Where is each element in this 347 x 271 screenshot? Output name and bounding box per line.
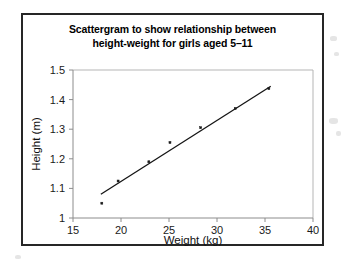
y-axis-tick-labels: 11.11.21.31.41.5 xyxy=(50,64,65,224)
y-axis-title: Height (m) xyxy=(30,117,42,171)
data-point xyxy=(148,161,150,163)
y-tick-label: 1.2 xyxy=(50,153,65,165)
y-tick-label: 1.4 xyxy=(50,94,65,106)
plot-background xyxy=(73,70,313,218)
data-point xyxy=(200,127,202,129)
x-tick-label: 40 xyxy=(307,224,319,236)
x-tick-label: 35 xyxy=(259,224,271,236)
x-tick-label: 20 xyxy=(115,224,127,236)
plot-area: 11.11.21.31.41.5 152025303540 Weight (kg… xyxy=(0,0,347,271)
y-tick-label: 1.3 xyxy=(50,123,65,135)
y-tick-label: 1.5 xyxy=(50,64,65,76)
data-point xyxy=(169,142,171,144)
data-point xyxy=(101,202,103,204)
x-axis-title: Weight (kg) xyxy=(164,234,223,246)
data-point xyxy=(268,88,270,90)
y-tick-label: 1 xyxy=(59,212,65,224)
x-tick-label: 15 xyxy=(67,224,79,236)
x-axis-tick-marks xyxy=(73,218,313,222)
y-axis-tick-marks xyxy=(69,70,73,218)
y-tick-label: 1.1 xyxy=(50,182,65,194)
data-point xyxy=(117,180,119,182)
scattergram-figure: Scattergram to show relationship between… xyxy=(0,0,347,271)
data-point xyxy=(234,107,236,109)
